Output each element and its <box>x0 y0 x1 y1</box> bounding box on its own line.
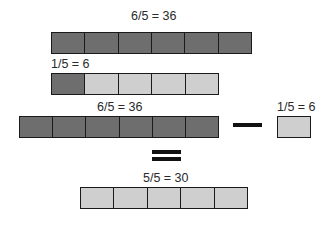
dark-cell <box>120 117 153 137</box>
light-cell <box>181 188 214 208</box>
light-cell <box>85 74 118 94</box>
dark-cell <box>52 33 85 53</box>
light-cell <box>148 188 181 208</box>
light-cell <box>215 188 247 208</box>
dark-cell <box>152 33 185 53</box>
dark-cell <box>20 117 53 137</box>
unit-bar-label: 1/5 = 6 <box>51 57 90 71</box>
dark-cell <box>185 33 218 53</box>
light-cell <box>119 74 152 94</box>
left-bar <box>19 116 219 138</box>
dark-cell <box>53 117 86 137</box>
dark-cell <box>86 117 119 137</box>
equals-sign-bottom-line-icon <box>152 157 181 161</box>
minus-sign-icon <box>233 123 262 127</box>
dark-cell <box>52 74 85 94</box>
result-bar-label: 5/5 = 30 <box>143 171 189 185</box>
unit-bar <box>51 73 219 95</box>
dark-cell <box>186 117 218 137</box>
dark-cell <box>153 117 186 137</box>
right-bar <box>277 116 311 138</box>
light-cell <box>278 117 310 137</box>
light-cell <box>81 188 114 208</box>
right-bar-label: 1/5 = 6 <box>277 100 316 114</box>
light-cell <box>186 74 218 94</box>
top-bar <box>51 32 252 54</box>
light-cell <box>114 188 147 208</box>
result-bar <box>80 187 248 209</box>
top-bar-label: 6/5 = 36 <box>131 9 177 23</box>
light-cell <box>152 74 185 94</box>
dark-cell <box>219 33 251 53</box>
dark-cell <box>85 33 118 53</box>
equals-sign-top-line-icon <box>152 150 181 154</box>
left-bar-label: 6/5 = 36 <box>97 100 143 114</box>
dark-cell <box>119 33 152 53</box>
